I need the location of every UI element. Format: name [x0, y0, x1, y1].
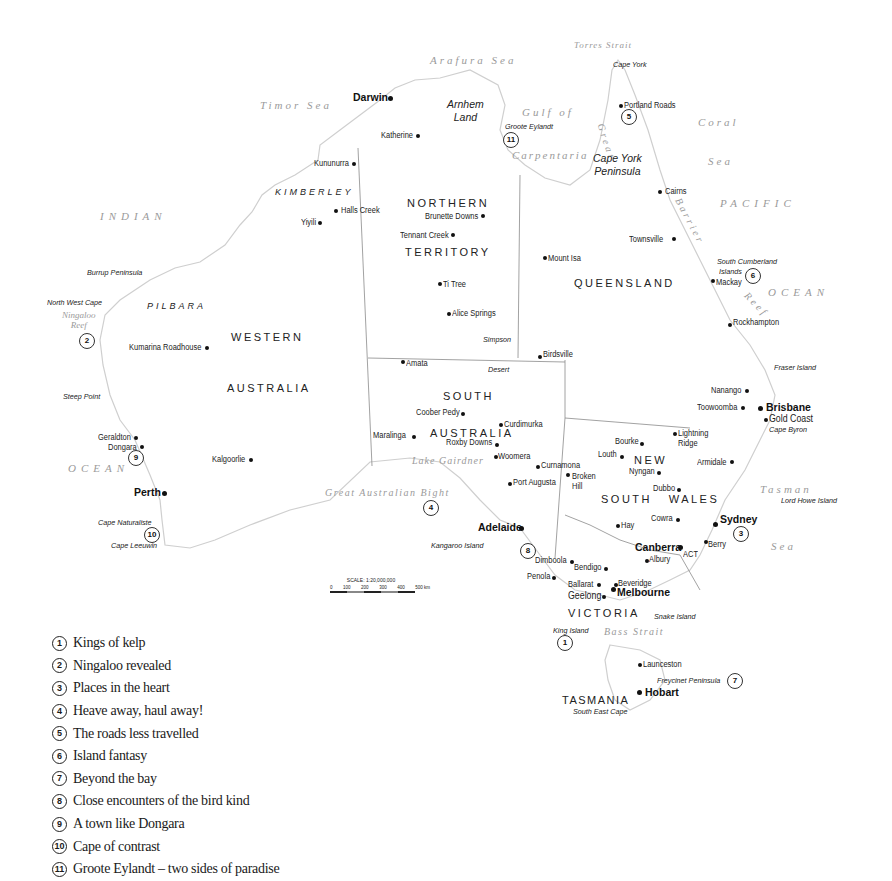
town-label-berry: Berry [708, 540, 726, 549]
legend-item[interactable]: 6 Island fantasy [52, 745, 279, 768]
story-marker-7[interactable]: 7 [727, 673, 743, 689]
town-dot-tennant-creek [451, 233, 455, 237]
town-dot-mount-isa [543, 256, 547, 260]
town-label-coober-pedy: Coober Pedy [416, 408, 460, 417]
state-label-territory: TERRITORY [405, 247, 491, 258]
town-label-mount-isa: Mount Isa [548, 254, 581, 263]
feature-label-king-island: King Island [553, 627, 589, 635]
town-label-geraldton: Geraldton [98, 433, 131, 442]
town-dot-berry [704, 540, 708, 544]
town-label-halls-creek: Halls Creek [341, 206, 380, 215]
state-label-tasmania: TASMANIA [562, 695, 629, 706]
town-label-bendigo: Bendigo [574, 563, 601, 572]
scale-bar: SCALE: 1:20,000,000 0 100 200 300 400 50… [330, 577, 420, 593]
legend-item[interactable]: 2 Ningaloo revealed [52, 655, 279, 678]
territory-label-act: ACT [683, 550, 698, 559]
town-label-ballarat: Ballarat [568, 580, 593, 589]
legend-item[interactable]: 11 Groote Eylandt – two sides of paradis… [52, 858, 279, 881]
town-label-cowra: Cowra [651, 514, 673, 523]
town-dot-bourke [640, 442, 644, 446]
legend-number-badge: 11 [52, 862, 67, 877]
legend-item[interactable]: 5 The roads less travelled [52, 722, 279, 745]
town-label-toowoomba: Toowoomba [697, 403, 737, 412]
town-label-launceston: Launceston [643, 660, 682, 669]
legend-label: A town like Dongara [73, 816, 184, 832]
town-dot-lightning-ridge [673, 432, 677, 436]
city-label-perth: Perth [134, 487, 161, 498]
scale-tick: 500 km [415, 585, 430, 590]
story-marker-6[interactable]: 6 [745, 268, 761, 284]
scale-title: SCALE: 1:20,000,000 [322, 577, 420, 583]
state-label-south-wales: SOUTH WALES [601, 494, 719, 505]
legend-number-badge: 6 [52, 749, 67, 764]
story-marker-11[interactable]: 11 [503, 132, 519, 148]
town-label-louth: Louth [598, 450, 617, 459]
feature-label-north-west-cape: North West Cape [47, 299, 102, 307]
sea-label-indian: INDIAN [100, 211, 167, 222]
legend-item[interactable]: 7 Beyond the bay [52, 768, 279, 791]
state-label-victoria: VICTORIA [568, 608, 640, 619]
legend-item[interactable]: 9 A town like Dongara [52, 813, 279, 836]
story-marker-10[interactable]: 10 [144, 527, 160, 543]
legend-label: Ningaloo revealed [73, 658, 171, 674]
story-marker-8[interactable]: 8 [520, 543, 536, 559]
town-dot-louth [620, 455, 624, 459]
town-dot-halls-creek [334, 209, 338, 213]
city-dot-perth [162, 491, 167, 496]
town-dot-nanango [745, 389, 749, 393]
state-label-queensland: QUEENSLAND [574, 278, 675, 289]
town-dot-mackay [711, 279, 715, 283]
scale-tick: 100 [343, 585, 351, 590]
legend-item[interactable]: 10 Cape of contrast [52, 835, 279, 858]
town-label-geelong: Geelong [568, 591, 601, 601]
town-dot-amata [401, 360, 405, 364]
feature-label-steep-point: Steep Point [63, 393, 100, 401]
town-dot-rockhampton [728, 323, 732, 327]
legend-number-badge: 4 [52, 704, 67, 719]
town-dot-brunette-downs [481, 214, 485, 218]
town-dot-gold-coast [764, 418, 768, 422]
state-borders [358, 148, 700, 590]
legend-number-badge: 5 [52, 726, 67, 741]
story-marker-4[interactable]: 4 [423, 500, 439, 516]
town-dot-cowra [676, 518, 680, 522]
state-label-south: SOUTH [443, 391, 494, 402]
feature-label-south-east-cape: South East Cape [573, 708, 627, 716]
town-dot-toowoomba [741, 406, 745, 410]
sea-label-torres-strait: Torres Strait [574, 41, 632, 50]
town-dot-hay [616, 524, 620, 528]
town-label-nyngan: Nyngan [629, 467, 655, 476]
town-dot-roxby-downs [495, 443, 499, 447]
town-label-kununurra: Kununurra [314, 159, 349, 168]
scale-tick: 400 [397, 585, 405, 590]
legend-item[interactable]: 8 Close encounters of the bird kind [52, 790, 279, 813]
town-dot-curdimurka [499, 423, 503, 427]
state-label-northern: NORTHERN [407, 198, 489, 209]
town-label-lightning-ridge: Lightning Ridge [678, 428, 708, 448]
town-dot-maralinga [412, 435, 416, 439]
town-label-gold-coast: Gold Coast [769, 414, 813, 424]
legend-item[interactable]: 1 Kings of kelp [52, 632, 279, 655]
city-dot-brisbane [758, 406, 763, 411]
feature-label-snake-island: Snake Island [654, 613, 696, 621]
legend-label: Places in the heart [73, 680, 170, 696]
state-label-new: NEW [634, 455, 667, 466]
story-marker-9[interactable]: 9 [128, 450, 144, 466]
story-marker-2[interactable]: 2 [79, 333, 95, 349]
town-dot-townsville [672, 237, 676, 241]
town-label-kumarina-roadhouse: Kumarina Roadhouse [129, 343, 201, 352]
region-label-pilbara: PILBARA [147, 302, 206, 311]
town-dot-curnamona [536, 465, 540, 469]
sea-label-arafura-sea: Arafura Sea [430, 55, 516, 66]
city-dot-melbourne [611, 587, 616, 592]
sea-label-tasman: Tasman [760, 484, 812, 495]
legend-item[interactable]: 3 Places in the heart [52, 677, 279, 700]
story-marker-3[interactable]: 3 [733, 526, 749, 542]
story-marker-5[interactable]: 5 [621, 109, 637, 125]
story-marker-1[interactable]: 1 [557, 635, 573, 651]
town-dot-yiyili [318, 221, 322, 225]
lake-label-gairdner: Lake Gairdner [412, 456, 484, 466]
feature-label-islands: Islands [719, 268, 742, 276]
legend-number-badge: 8 [52, 794, 67, 809]
legend-item[interactable]: 4 Heave away, haul away! [52, 700, 279, 723]
